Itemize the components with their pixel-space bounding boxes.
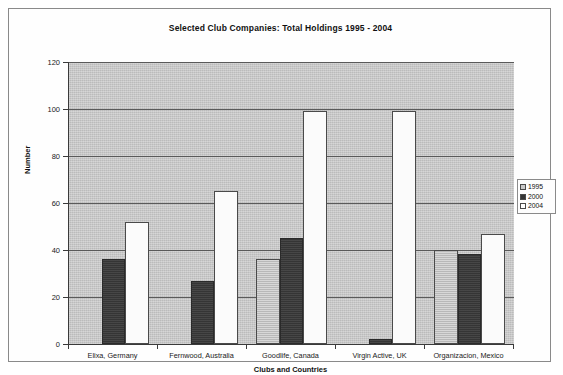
- plot-area: [68, 62, 514, 345]
- legend-item-2000: 2000: [520, 192, 553, 201]
- bar-2004-5: [481, 234, 505, 344]
- legend-item-1995: 1995: [520, 183, 553, 192]
- y-tick-label: 60: [34, 199, 60, 208]
- x-tick-mark: [68, 345, 69, 349]
- x-tick-mark: [424, 345, 425, 349]
- gridline: [69, 62, 514, 63]
- legend-label-1995: 1995: [528, 183, 543, 191]
- bar-2000-1: [102, 259, 126, 344]
- x-tick-mark: [246, 345, 247, 349]
- bar-2000-2: [191, 281, 215, 344]
- y-tick-label: 80: [34, 152, 60, 161]
- legend-swatch-2004-icon: [520, 203, 526, 209]
- y-tick-label: 40: [34, 246, 60, 255]
- chart-screenshot: Selected Club Companies: Total Holdings …: [0, 0, 563, 375]
- x-category-label-1: Elixa, Germany: [88, 351, 138, 360]
- y-axis-title: Number: [23, 146, 32, 174]
- legend-swatch-2000-icon: [520, 194, 526, 200]
- bar-2000-4: [369, 339, 393, 344]
- y-tick-label: 120: [34, 58, 60, 67]
- x-axis-title: Clubs and Countries: [68, 365, 513, 374]
- x-tick-mark: [513, 345, 514, 349]
- bar-1995-3: [256, 259, 280, 344]
- x-category-label-5: Organizacion, Mexico: [433, 351, 503, 360]
- chart-frame: Selected Club Companies: Total Holdings …: [8, 8, 551, 362]
- x-tick-mark: [335, 345, 336, 349]
- legend-label-2000: 2000: [528, 193, 543, 201]
- y-tick-label: 100: [34, 105, 60, 114]
- gridline: [69, 109, 514, 110]
- y-tick-label: 0: [34, 340, 60, 349]
- legend-label-2004: 2004: [528, 202, 543, 210]
- x-category-label-4: Virgin Active, UK: [352, 351, 406, 360]
- bar-2004-4: [392, 111, 416, 344]
- bar-1995-5: [434, 250, 458, 344]
- y-tick-label: 20: [34, 293, 60, 302]
- x-category-label-2: Fernwood, Australia: [169, 351, 234, 360]
- gridline: [69, 156, 514, 157]
- bar-2004-3: [303, 111, 327, 344]
- bar-2004-1: [125, 222, 149, 344]
- bar-2000-3: [280, 238, 304, 344]
- bar-2000-5: [458, 254, 482, 344]
- bar-2004-2: [214, 191, 238, 344]
- gridline: [69, 203, 514, 204]
- x-tick-mark: [157, 345, 158, 349]
- x-category-label-3: Goodlife, Canada: [262, 351, 319, 360]
- chart-legend: 1995 2000 2004: [517, 179, 556, 214]
- legend-swatch-1995-icon: [520, 184, 526, 190]
- legend-item-2004: 2004: [520, 202, 553, 211]
- chart-title: Selected Club Companies: Total Holdings …: [9, 23, 552, 33]
